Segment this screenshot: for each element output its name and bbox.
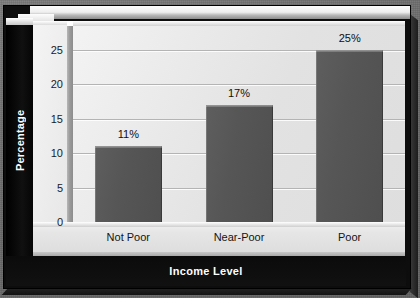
y-axis-tick-label: 25 <box>33 44 63 56</box>
bar <box>95 146 162 222</box>
bar-value-label: 17% <box>199 87 279 99</box>
bar-top-highlight <box>206 105 273 107</box>
x-axis-title: Income Level <box>6 256 406 286</box>
bar-top-highlight <box>95 146 162 148</box>
top-bevel-edge <box>30 6 410 19</box>
bar <box>316 50 383 222</box>
base-plate-top-lip <box>33 222 405 227</box>
bar-value-label: 11% <box>88 128 168 140</box>
bar-top-highlight <box>316 50 383 52</box>
plot-area <box>73 25 405 222</box>
x-axis-category-label: Not Poor <box>68 231 188 243</box>
frame-depth-bottom-face <box>2 288 412 295</box>
y-axis-tick-label: 0 <box>33 216 63 228</box>
y-axis-tick-label: 10 <box>33 147 63 159</box>
frame-depth-right-face <box>410 14 418 298</box>
x-axis-category-label: Poor <box>290 231 410 243</box>
x-axis-category-label: Near-Poor <box>179 231 299 243</box>
y-axis-title: Percentage <box>6 24 33 256</box>
y-axis-tick-label: 5 <box>33 182 63 194</box>
y-axis-tick-label: 20 <box>33 78 63 90</box>
bar-value-label: 25% <box>310 32 390 44</box>
chart-screenshot: Percentage Income Level 051015202511%Not… <box>0 0 420 298</box>
bar <box>206 105 273 222</box>
y-axis-tick-label: 15 <box>33 113 63 125</box>
